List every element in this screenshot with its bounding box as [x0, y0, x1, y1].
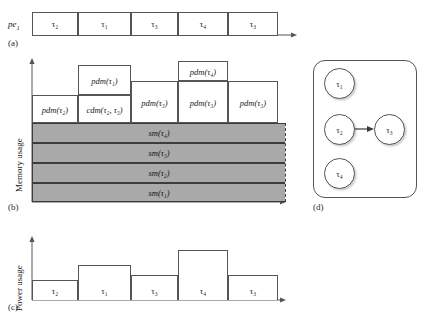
shared-memory-band-label: sm(τ₂) — [33, 168, 285, 178]
panel-d-task-graph: τ₁ τ₂ τ₃ τ₄ (d) — [305, 52, 427, 222]
memory-block-label: pdm(τ₂) — [33, 106, 77, 115]
memory-block-label: pdm(τ₃) — [179, 99, 227, 108]
memory-block-private: pdm(τ₁) — [78, 65, 131, 95]
shared-memory-band: sm(τ₄) — [32, 123, 285, 143]
task-node: τ₂ — [324, 114, 355, 145]
power-bar-label: τ₄ — [179, 287, 227, 296]
shared-memory-band: sm(τ₁) — [32, 183, 285, 202]
panel-d-caption: (d) — [313, 202, 324, 212]
power-bar-label: τ₃ — [132, 287, 177, 296]
task-node-label: τ₄ — [336, 169, 342, 179]
task-node: τ₄ — [324, 158, 355, 189]
memory-block-private: pdm(τ₄) — [178, 61, 228, 81]
memory-block-private: pdm(τ₂) — [32, 95, 78, 123]
memory-block-label: pdm(τ₁) — [79, 77, 130, 86]
memory-block-private: pdm(τ₃) — [178, 81, 228, 123]
shared-memory-band: sm(τ₃) — [32, 143, 285, 163]
task-node-label: τ₃ — [386, 125, 392, 135]
memory-block-private: pdm(τ₃) — [131, 81, 178, 123]
memory-block-private: pdm(τ₃) — [228, 81, 278, 123]
figure-root: pe1 τ₂ τ₁ τ₃ τ₄ τ₃ (a) Memory usage — [0, 0, 427, 326]
memory-block-label: pdm(τ₄) — [179, 68, 227, 77]
task-node-label: τ₂ — [336, 125, 342, 135]
power-bar-label: τ₂ — [33, 287, 77, 296]
shared-memory-band-label: sm(τ₁) — [33, 188, 285, 198]
power-bar: τ₃ — [228, 275, 278, 300]
shared-memory-band: sm(τ₂) — [32, 163, 285, 183]
panel-a-time-axis-arrow — [0, 0, 300, 52]
power-bar: τ₁ — [78, 265, 131, 300]
memory-block-copied: cdm(τ₂, τ₃) — [78, 95, 131, 123]
shared-memory-band-label: sm(τ₃) — [33, 148, 285, 158]
power-bar-label: τ₁ — [79, 287, 130, 296]
task-node: τ₁ — [324, 68, 355, 99]
panel-a-caption: (a) — [8, 38, 18, 48]
panel-b-memory-usage: Memory usage pdm(τ₂) cdm(τ₂, τ₃) pdm(τ₁)… — [0, 52, 300, 212]
power-bar-label: τ₃ — [229, 287, 277, 296]
task-node-label: τ₁ — [336, 79, 342, 89]
panel-c-caption: (c) — [8, 302, 18, 312]
memory-block-label: cdm(τ₂, τ₃) — [79, 106, 130, 115]
task-node: τ₃ — [374, 114, 405, 145]
task-graph-edges — [305, 52, 427, 222]
shared-memory-dashed-edge — [285, 123, 286, 202]
shared-memory-band-label: sm(τ₄) — [33, 128, 285, 138]
memory-block-label: pdm(τ₃) — [132, 99, 177, 108]
memory-block-label: pdm(τ₃) — [229, 99, 277, 108]
panel-b-caption: (b) — [8, 202, 19, 212]
power-bar: τ₃ — [131, 275, 178, 300]
panel-a-schedule: pe1 τ₂ τ₁ τ₃ τ₄ τ₃ (a) — [0, 0, 300, 52]
power-bar: τ₂ — [32, 280, 78, 300]
power-bar: τ₄ — [178, 250, 228, 300]
panel-c-power-usage: Power usage τ₂ τ₁ τ₃ τ₄ τ₃ (c) — [0, 228, 300, 326]
